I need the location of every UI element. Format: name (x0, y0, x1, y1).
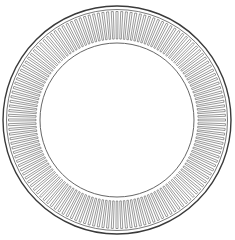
slot (111, 12, 114, 40)
slot (116, 12, 118, 40)
slot (9, 110, 37, 114)
slot (197, 105, 225, 110)
slot (9, 114, 37, 117)
slot (197, 130, 225, 135)
slot (123, 201, 127, 229)
slot-group (9, 12, 226, 229)
slot (9, 119, 37, 121)
slotted-ring-figure (0, 0, 235, 240)
slot (9, 105, 37, 110)
slot (198, 123, 226, 126)
slot (102, 200, 107, 228)
slot (102, 12, 107, 40)
ring-drawing (0, 0, 235, 240)
slot (120, 201, 123, 229)
slot (127, 200, 132, 228)
slot (107, 201, 111, 229)
slot (198, 126, 226, 130)
slot (111, 201, 114, 229)
slot (123, 12, 127, 40)
slot (9, 126, 37, 130)
slot (198, 119, 226, 121)
slot (198, 114, 226, 117)
slot (127, 12, 132, 40)
inner-circle (40, 43, 194, 197)
slot (9, 130, 37, 135)
slot (198, 110, 226, 114)
slot (120, 12, 123, 40)
slot (107, 12, 111, 40)
slot (116, 201, 118, 229)
outer-circle (3, 6, 231, 234)
slot (9, 123, 37, 126)
